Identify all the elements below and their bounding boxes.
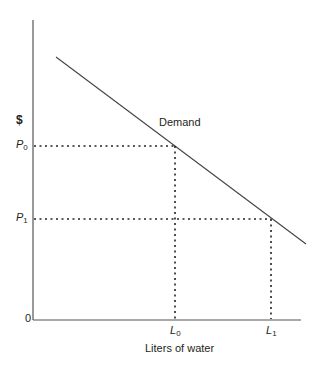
l1-label: L1 xyxy=(266,325,277,338)
origin-label: 0 xyxy=(25,313,31,324)
demand-label: Demand xyxy=(159,117,201,128)
p1-label: P1 xyxy=(16,212,28,225)
y-axis-label: $ xyxy=(16,114,23,126)
p0-label: P0 xyxy=(16,139,28,152)
x-axis-label: Liters of water xyxy=(145,343,214,354)
demand-chart xyxy=(0,0,323,372)
demand-curve xyxy=(56,57,306,244)
l0-label: L0 xyxy=(170,325,181,338)
